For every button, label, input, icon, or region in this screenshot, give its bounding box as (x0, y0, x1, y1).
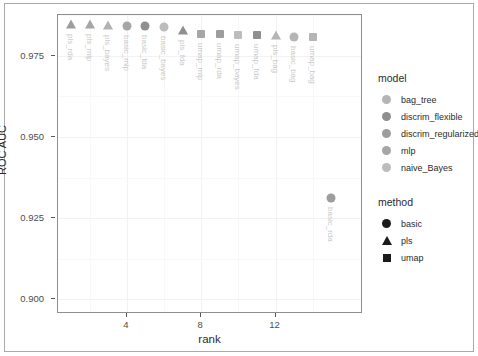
data-point[interactable] (309, 33, 317, 41)
x-tick-label: 8 (198, 319, 203, 330)
y-tick-mark (51, 136, 55, 137)
circle-marker-icon (382, 219, 391, 228)
point-label: pls_mlp (85, 34, 94, 62)
data-point[interactable] (234, 31, 242, 39)
legend-item-label: bag_tree (401, 95, 437, 105)
legend-item-model[interactable]: bag_tree (378, 91, 478, 108)
legend-item-label: mlp (401, 146, 416, 156)
data-point[interactable] (290, 32, 299, 41)
data-point[interactable] (85, 20, 95, 29)
circle-marker-icon (382, 112, 391, 121)
point-label: umap_fda (252, 44, 261, 80)
x-tick-mark (200, 313, 201, 317)
circle-marker-icon (382, 163, 391, 172)
legend-key-square-icon (378, 249, 395, 266)
legend-key-circle-icon (378, 125, 395, 142)
point-label: umap_rda (215, 43, 224, 79)
point-label: umap_bag (308, 46, 317, 84)
legend-key-circle-icon (378, 159, 395, 176)
data-point[interactable] (216, 30, 224, 38)
x-tick-mark (126, 313, 127, 317)
legend-model-title: model (378, 72, 478, 84)
point-label: pls_bayes (103, 35, 112, 71)
y-tick-label: 0.925 (0, 212, 44, 223)
point-label: basic_mlp (122, 35, 131, 71)
legend-item-label: basic (401, 219, 422, 229)
data-point[interactable] (103, 20, 113, 29)
legend-item-model[interactable]: discrim_regularized (378, 125, 478, 142)
gridline-horizontal (58, 137, 361, 138)
data-point[interactable] (178, 26, 188, 35)
x-tick-label: 12 (269, 319, 280, 330)
legend-item-method[interactable]: pls (378, 232, 424, 249)
x-tick-label: 4 (123, 319, 128, 330)
legend-item-method[interactable]: basic (378, 215, 424, 232)
gridline-horizontal-minor (58, 96, 361, 97)
x-tick-mark (275, 313, 276, 317)
point-label: pls_fda (178, 40, 187, 66)
legend-item-label: naive_Bayes (401, 163, 453, 173)
legend-key-circle-icon (378, 142, 395, 159)
point-label: pls_bag (271, 45, 280, 73)
legend-item-label: pls (401, 236, 413, 246)
square-marker-icon (383, 254, 391, 262)
y-tick-label: 0.900 (0, 293, 44, 304)
legend-item-method[interactable]: umap (378, 249, 424, 266)
point-label: umap_bayes (233, 44, 242, 90)
point-label: umap_mlp (196, 43, 205, 80)
legend-model: model bag_treediscrim_flexiblediscrim_re… (378, 72, 478, 176)
point-label: basic_fda (140, 35, 149, 69)
data-point[interactable] (253, 31, 261, 39)
point-label: basic_bag (289, 46, 298, 82)
legend-item-model[interactable]: discrim_flexible (378, 108, 478, 125)
circle-marker-icon (382, 95, 391, 104)
point-label: basic_bayes (159, 36, 168, 80)
point-label: basic_rda (326, 207, 335, 242)
gridline-horizontal (58, 218, 361, 219)
gridline-horizontal-minor (58, 259, 361, 260)
legend-item-label: umap (401, 253, 424, 263)
legend-method: method basicplsumap (378, 196, 424, 266)
plot-panel: pls_rdapls_mlppls_bayesbasic_mlpbasic_fd… (57, 14, 362, 313)
gridline-horizontal-minor (58, 15, 361, 16)
circle-marker-icon (382, 129, 391, 138)
data-point[interactable] (160, 23, 169, 32)
legend-item-label: discrim_flexible (401, 112, 463, 122)
point-label: pls_rda (66, 34, 75, 60)
legend-key-circle-icon (378, 91, 395, 108)
legend-item-model[interactable]: mlp (378, 142, 478, 159)
y-axis-label: ROC AUC (0, 125, 8, 175)
y-tick-label: 0.975 (0, 49, 44, 60)
chart-figure: pls_rdapls_mlppls_bayesbasic_mlpbasic_fd… (0, 0, 478, 356)
data-point[interactable] (141, 22, 150, 31)
y-tick-mark (51, 298, 55, 299)
legend-method-title: method (378, 196, 424, 208)
data-point[interactable] (122, 22, 131, 31)
triangle-marker-icon (382, 236, 392, 245)
legend-key-triangle-icon (378, 232, 395, 249)
legend-key-circle-icon (378, 108, 395, 125)
data-point[interactable] (66, 20, 76, 29)
x-axis-label: rank (57, 333, 362, 345)
legend-item-label: discrim_regularized (401, 129, 478, 139)
circle-marker-icon (382, 146, 391, 155)
legend-key-circle-icon (378, 215, 395, 232)
data-point[interactable] (197, 30, 205, 38)
data-point[interactable] (271, 31, 281, 40)
gridline-horizontal (58, 299, 361, 300)
legend-method-rows: basicplsumap (378, 215, 424, 266)
y-tick-mark (51, 55, 55, 56)
gridline-horizontal-minor (58, 178, 361, 179)
legend-model-rows: bag_treediscrim_flexiblediscrim_regulari… (378, 91, 478, 176)
data-point[interactable] (327, 193, 336, 202)
y-tick-mark (51, 217, 55, 218)
legend-item-model[interactable]: naive_Bayes (378, 159, 478, 176)
